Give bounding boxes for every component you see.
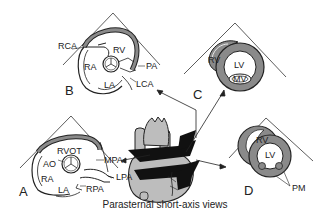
parasternal-short-axis-diagram: RCA RV RA LA PA LCA B RV LV MV C RVOT AO… bbox=[0, 0, 330, 216]
label-rv-d: RV bbox=[256, 136, 268, 145]
label-ao: AO bbox=[43, 160, 56, 169]
label-ra-a: RA bbox=[41, 175, 54, 184]
figure-caption: Parasternal short-axis views bbox=[0, 199, 330, 210]
central-heart-illustration bbox=[128, 117, 200, 202]
panel-letter-a: A bbox=[19, 185, 28, 198]
label-mpa: MPA bbox=[104, 156, 123, 165]
panel-letter-d: D bbox=[244, 184, 253, 197]
label-mv: MV bbox=[233, 75, 247, 84]
label-lca: LCA bbox=[136, 80, 154, 89]
label-rv-b: RV bbox=[113, 46, 125, 55]
label-rpa: RPA bbox=[86, 185, 104, 194]
label-la-b: LA bbox=[104, 81, 115, 90]
label-la-a: LA bbox=[58, 186, 69, 195]
label-rvot: RVOT bbox=[57, 147, 82, 156]
label-ra-b: RA bbox=[84, 63, 97, 72]
label-rca: RCA bbox=[58, 42, 77, 51]
label-lv-d: LV bbox=[265, 151, 275, 160]
panel-letter-c: C bbox=[193, 88, 202, 101]
label-pm: PM bbox=[292, 184, 306, 193]
label-rv-c: RV bbox=[208, 56, 220, 65]
label-pa: PA bbox=[146, 62, 157, 71]
label-lpa: LPA bbox=[116, 173, 132, 182]
panel-letter-b: B bbox=[65, 84, 74, 97]
label-lv-c: LV bbox=[234, 61, 244, 70]
